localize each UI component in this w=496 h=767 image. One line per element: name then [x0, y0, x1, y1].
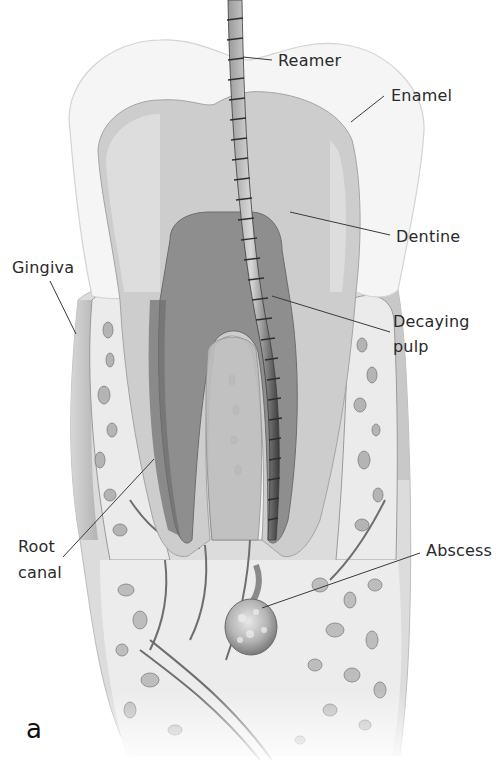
gingiva-leader	[50, 281, 76, 334]
label-decaying-pulp-line2: pulp	[393, 337, 429, 357]
label-gingiva: Gingiva	[12, 258, 74, 278]
label-root-canal-line1: Root	[18, 537, 55, 557]
label-root-canal-line2: canal	[18, 563, 62, 583]
label-reamer: Reamer	[278, 51, 341, 71]
label-decaying-pulp-line1: Decaying	[393, 312, 470, 332]
tooth-diagram: Reamer Enamel Dentine Decaying pulp Ging…	[0, 0, 496, 767]
panel-letter: a	[26, 714, 42, 744]
tooth-illustration	[0, 0, 496, 767]
label-abscess: Abscess	[426, 541, 492, 561]
label-dentine: Dentine	[396, 227, 460, 247]
label-enamel: Enamel	[391, 86, 452, 106]
